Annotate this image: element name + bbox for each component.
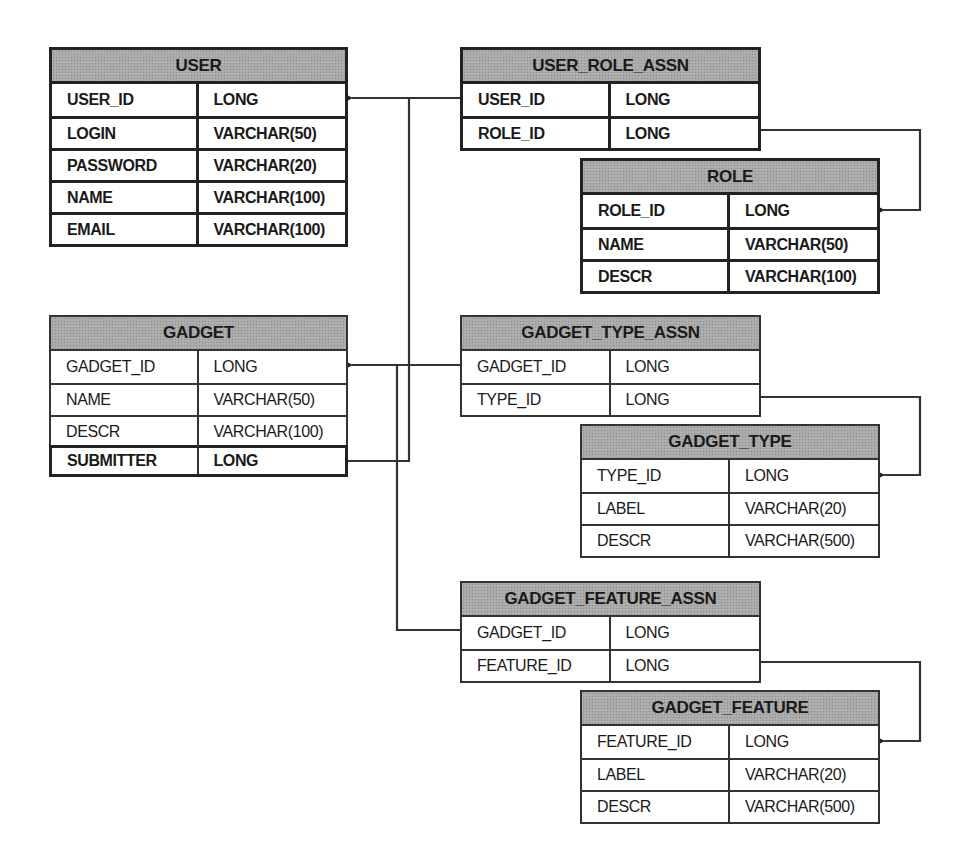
table-header: GADGET_FEATURE [582,692,878,726]
column-name: LABEL [582,494,730,524]
table-row: NAME VARCHAR(100) [52,180,345,212]
table-header: USER [52,50,345,84]
table-row: NAME VARCHAR(50) [51,383,346,415]
table-row: DESCR VARCHAR(100) [583,259,877,291]
table-gadget-type-assn[interactable]: GADGET_TYPE_ASSN GADGET_ID LONG TYPE_ID … [460,315,761,417]
column-type: LONG [199,351,258,383]
table-header: GADGET_TYPE_ASSN [462,317,759,351]
table-row-submitter: SUBMITTER LONG [49,445,348,477]
column-name: LABEL [582,760,730,790]
table-row: PASSWORD VARCHAR(20) [52,148,345,180]
table-row: GADGET_ID LONG [462,617,759,649]
column-type: VARCHAR(100) [199,183,325,212]
column-name: USER_ID [463,84,611,116]
table-row: DESCR VARCHAR(100) [51,415,346,447]
table-gadget[interactable]: GADGET GADGET_ID LONG NAME VARCHAR(50) D… [49,315,348,477]
column-type: VARCHAR(500) [730,526,855,556]
column-type: LONG [611,351,670,383]
column-name: ROLE_ID [583,195,730,227]
table-header: GADGET_TYPE [582,426,878,460]
table-row: TYPE_ID LONG [462,383,759,415]
table-role[interactable]: ROLE ROLE_ID LONG NAME VARCHAR(50) DESCR… [580,158,880,294]
column-name: GADGET_ID [462,617,611,649]
table-header: GADGET_FEATURE_ASSN [462,583,759,617]
table-header: ROLE [583,161,877,195]
column-type: LONG [730,195,790,227]
column-name: NAME [52,183,199,212]
table-row: DESCR VARCHAR(500) [582,524,878,556]
column-name: EMAIL [52,215,199,244]
table-header: USER_ROLE_ASSN [463,50,758,84]
column-name: LOGIN [52,119,199,148]
column-name: TYPE_ID [582,460,730,492]
column-name: TYPE_ID [462,385,611,415]
column-type: LONG [611,119,671,148]
table-row: FEATURE_ID LONG [582,726,878,758]
table-row: USER_ID LONG [52,84,345,116]
table-row: ROLE_ID LONG [463,116,758,148]
table-row: LABEL VARCHAR(20) [582,758,878,790]
table-header: GADGET [51,317,346,351]
column-type: VARCHAR(500) [730,792,855,822]
column-name: DESCR [51,417,199,447]
column-type: VARCHAR(20) [199,151,317,180]
column-type: VARCHAR(50) [199,385,315,415]
column-type: LONG [199,448,259,474]
column-name: FEATURE_ID [582,726,730,758]
column-name: NAME [51,385,199,415]
column-type: LONG [611,84,671,116]
column-name: NAME [583,230,730,259]
column-type: VARCHAR(20) [730,494,846,524]
column-type: VARCHAR(50) [730,230,848,259]
table-row: TYPE_ID LONG [582,460,878,492]
column-name: ROLE_ID [463,119,611,148]
column-name: DESCR [582,792,730,822]
table-row: DESCR VARCHAR(500) [582,790,878,822]
column-name: GADGET_ID [51,351,199,383]
column-type: LONG [611,385,670,415]
column-name: GADGET_ID [462,351,611,383]
column-type: LONG [730,460,789,492]
table-user-role-assn[interactable]: USER_ROLE_ASSN USER_ID LONG ROLE_ID LONG [460,47,761,151]
table-row: GADGET_ID LONG [51,351,346,383]
column-name: PASSWORD [52,151,199,180]
column-name: DESCR [582,526,730,556]
column-type: VARCHAR(100) [730,262,856,291]
table-row: EMAIL VARCHAR(100) [52,212,345,244]
column-type: VARCHAR(100) [199,417,324,447]
table-gadget-feature[interactable]: GADGET_FEATURE FEATURE_ID LONG LABEL VAR… [580,690,880,824]
column-type: VARCHAR(20) [730,760,846,790]
column-type: VARCHAR(100) [199,215,325,244]
column-type: LONG [199,84,259,116]
table-row: USER_ID LONG [463,84,758,116]
column-name: FEATURE_ID [462,651,611,681]
connector-gadget-submitter-to-user [347,98,409,461]
table-row: LOGIN VARCHAR(50) [52,116,345,148]
column-type: LONG [611,651,670,681]
table-row: FEATURE_ID LONG [462,649,759,681]
connector-gadgetfeatureassn-to-gadget [397,365,460,630]
column-name: SUBMITTER [52,448,199,474]
table-user[interactable]: USER USER_ID LONG LOGIN VARCHAR(50) PASS… [49,47,348,247]
column-type: VARCHAR(50) [199,119,317,148]
column-name: DESCR [583,262,730,291]
table-row: ROLE_ID LONG [583,195,877,227]
table-gadget-type[interactable]: GADGET_TYPE TYPE_ID LONG LABEL VARCHAR(2… [580,424,880,558]
table-gadget-feature-assn[interactable]: GADGET_FEATURE_ASSN GADGET_ID LONG FEATU… [460,581,761,683]
table-row: LABEL VARCHAR(20) [582,492,878,524]
table-row: GADGET_ID LONG [462,351,759,383]
column-name: USER_ID [52,84,199,116]
table-row: NAME VARCHAR(50) [583,227,877,259]
column-type: LONG [730,726,789,758]
column-type: LONG [611,617,670,649]
